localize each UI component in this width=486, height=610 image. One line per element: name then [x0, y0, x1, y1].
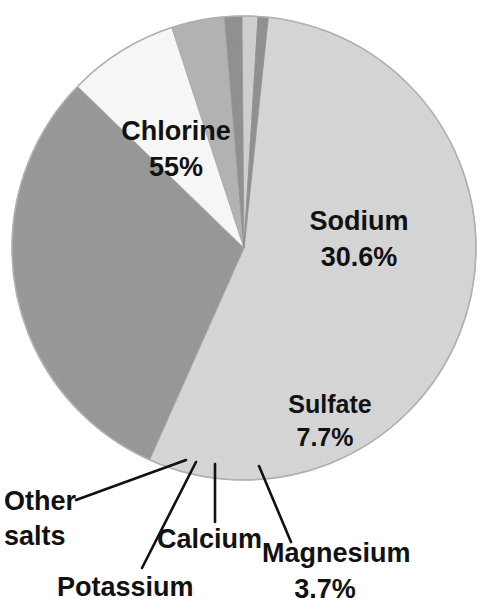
slice-label-sodium-name: Sodium — [310, 206, 409, 236]
callout-labels-group: Other salts Potassium Calcium Magnesium … — [4, 486, 411, 604]
slice-label-chlorine-name: Chlorine — [121, 116, 231, 146]
leader-line-other-salts — [76, 460, 186, 500]
slice-label-sodium-value: 30.6% — [321, 242, 398, 272]
slice-label-magnesium-name: Magnesium — [262, 538, 411, 568]
slice-label-magnesium-value: 3.7% — [294, 574, 356, 604]
slice-label-sulfate-name: Sulfate — [288, 390, 371, 418]
pie-chart-canvas: Chlorine 55% Sodium 30.6% Sulfate 7.7% O… — [0, 0, 486, 610]
slice-label-calcium: Calcium — [157, 524, 262, 554]
slice-label-other-salts-line1: Other — [4, 486, 77, 516]
pie-chart-figure: Chlorine 55% Sodium 30.6% Sulfate 7.7% O… — [0, 0, 486, 610]
slice-label-other-salts-line2: salts — [4, 521, 66, 551]
slice-label-potassium: Potassium — [57, 572, 194, 602]
pie-slices-group — [12, 16, 476, 480]
slice-label-sulfate-value: 7.7% — [297, 423, 354, 451]
slice-label-chlorine-value: 55% — [149, 152, 203, 182]
